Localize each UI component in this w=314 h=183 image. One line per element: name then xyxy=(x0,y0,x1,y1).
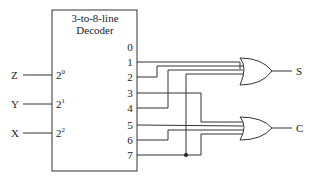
output-label-0: 0 xyxy=(127,41,133,53)
or-gate-s xyxy=(240,58,272,85)
decoder-circuit-diagram: 3-to-8-line Decoder Z Y X 20 21 22 0 1 2… xyxy=(0,0,314,183)
input-label-z: Z xyxy=(11,69,18,81)
gate-output-s: S xyxy=(296,65,302,77)
wire-out4-to-s xyxy=(137,70,243,108)
input-weight-1: 21 xyxy=(56,97,66,110)
wire-out6-to-c xyxy=(137,130,243,140)
decoder-title-line1: 3-to-8-line xyxy=(71,12,118,24)
input-weight-2: 22 xyxy=(56,126,66,139)
gate-output-c: C xyxy=(296,122,303,134)
output-label-6: 6 xyxy=(127,134,133,146)
output-label-3: 3 xyxy=(127,87,133,99)
output-label-5: 5 xyxy=(127,119,133,131)
input-label-x: X xyxy=(11,127,19,139)
wire-out7-to-c xyxy=(137,134,243,155)
wire-out2-to-s xyxy=(137,66,243,77)
output-label-4: 4 xyxy=(127,102,133,114)
or-gate-c xyxy=(240,117,272,140)
decoder-title-line2: Decoder xyxy=(76,24,114,36)
wire-out5-to-c xyxy=(137,125,243,126)
junction-dot xyxy=(184,153,188,157)
input-weight-0: 20 xyxy=(56,68,66,81)
output-label-1: 1 xyxy=(127,56,133,68)
input-label-y: Y xyxy=(11,98,19,110)
wire-out7-to-s xyxy=(186,74,243,155)
output-label-7: 7 xyxy=(127,149,133,161)
output-label-2: 2 xyxy=(127,71,133,83)
